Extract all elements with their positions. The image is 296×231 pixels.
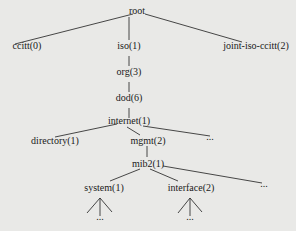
node-interface-more: ... (186, 211, 194, 222)
node-ccitt: ccitt(0) (13, 40, 42, 51)
node-internet-more: ... (206, 131, 214, 142)
edge-interface-c (190, 198, 202, 212)
edge-system-c (100, 198, 112, 212)
node-system-more: ... (96, 211, 104, 222)
node-dod: dod(6) (116, 92, 143, 103)
node-joint-iso-ccitt: joint-iso-ccitt(2) (223, 40, 289, 51)
node-system: system(1) (84, 182, 123, 193)
node-internet: internet(1) (108, 115, 150, 126)
edge-root-joint (145, 14, 242, 42)
edge-mib2-interface (150, 169, 178, 181)
node-directory: directory(1) (31, 135, 79, 146)
node-interface: interface(2) (168, 182, 215, 193)
node-iso: iso(1) (117, 40, 140, 51)
node-mgmt: mgmt(2) (131, 135, 166, 146)
edge-mib2-system (110, 169, 140, 181)
node-mib2-more: ... (260, 178, 268, 189)
edge-internet-mgmt (127, 127, 140, 135)
node-mib2: mib2(1) (132, 158, 164, 169)
node-org: org(3) (117, 66, 142, 77)
node-root: root (129, 5, 145, 16)
